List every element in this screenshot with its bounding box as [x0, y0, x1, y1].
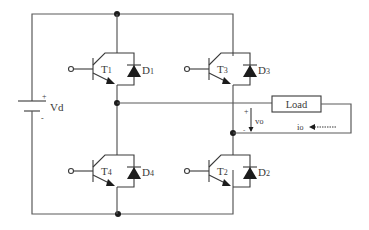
right-leg — [230, 85, 236, 155]
emitter-arrow-icon — [106, 179, 115, 186]
source-plus-sign: + — [42, 92, 47, 101]
top-rail-wire — [32, 14, 233, 101]
diode-d2-icon — [243, 167, 257, 179]
switch-t2: T2 D2 — [185, 155, 270, 187]
label-d1: D1 — [142, 64, 154, 76]
emitter-arrow-icon — [222, 179, 231, 186]
left-leg — [114, 14, 233, 214]
source-minus-sign: - — [41, 114, 44, 123]
bottom-junction-dot — [115, 211, 121, 217]
label-t3: T3 — [217, 63, 228, 75]
output-current-annotation: io — [297, 122, 336, 132]
gate-terminal-t4 — [69, 169, 74, 174]
emitter-arrow-icon — [106, 77, 115, 84]
gate-terminal-t1 — [69, 67, 74, 72]
label-d2: D2 — [258, 166, 270, 178]
vo-label: vo — [255, 116, 264, 126]
h-bridge-inverter-diagram: + - Vd T1 D1 — [0, 0, 369, 230]
emitter-arrow-icon — [222, 77, 231, 84]
switch-t3: T3 D3 — [185, 53, 270, 85]
dc-source-vd: + - Vd — [18, 92, 64, 123]
vo-arrow-icon — [249, 127, 254, 132]
bottom-rail-wire — [32, 118, 233, 214]
load-label: Load — [286, 99, 308, 110]
io-label: io — [297, 122, 304, 132]
label-d4: D4 — [142, 166, 154, 178]
label-t2: T2 — [217, 165, 228, 177]
diode-d4-icon — [127, 167, 141, 179]
vo-plus-sign: + — [244, 107, 249, 116]
diode-d1-icon — [127, 65, 141, 77]
diode-d3-icon — [243, 65, 257, 77]
label-d3: D3 — [258, 64, 270, 76]
label-t4: T4 — [101, 165, 112, 177]
switch-t1: T1 D1 — [69, 53, 154, 85]
source-label-vd: Vd — [50, 101, 64, 113]
label-t1: T1 — [101, 63, 112, 75]
switch-t4: T4 D4 — [69, 155, 154, 187]
output-voltage-annotation: + - vo — [243, 107, 264, 134]
gate-terminal-t3 — [185, 67, 190, 72]
dc-rails — [32, 11, 233, 217]
io-arrow-icon — [309, 124, 315, 130]
gate-terminal-t2 — [185, 169, 190, 174]
